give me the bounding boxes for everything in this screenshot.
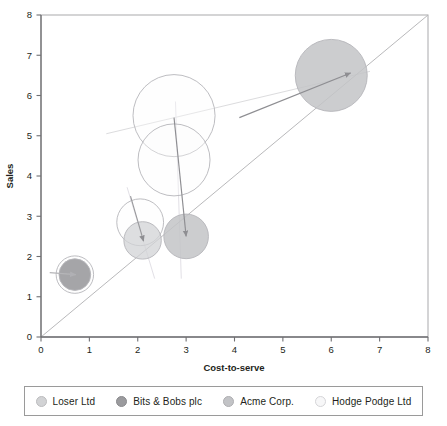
x-axis-tick-label: 8 (425, 344, 430, 355)
chart-legend: Loser Ltd Bits & Bobs plc Acme Corp. Hod… (24, 386, 423, 416)
y-axis-tick-label: 3 (27, 211, 32, 222)
legend-item-loser-ltd[interactable]: Loser Ltd (36, 396, 96, 407)
bubble-hodge-podge-ltd[interactable] (138, 124, 210, 196)
legend-swatch-bits-and-bobs-plc (116, 396, 127, 407)
x-axis-tick-label: 6 (329, 344, 334, 355)
y-axis-tick-label: 5 (27, 130, 32, 141)
bubble-loser-ltd[interactable] (124, 222, 161, 259)
y-axis-title: Sales (4, 164, 15, 189)
legend-label-acme-corp: Acme Corp. (240, 396, 294, 407)
legend-swatch-hodge-podge-ltd (315, 396, 326, 407)
y-axis-tick-label: 1 (27, 291, 32, 302)
legend-label-bits-and-bobs-plc: Bits & Bobs plc (133, 396, 202, 407)
x-axis-tick-label: 2 (135, 344, 140, 355)
y-axis-tick-label: 8 (27, 9, 32, 20)
x-axis-tick-label: 7 (377, 344, 382, 355)
legend-item-acme-corp[interactable]: Acme Corp. (223, 396, 294, 407)
legend-item-bits-and-bobs-plc[interactable]: Bits & Bobs plc (116, 396, 202, 407)
y-axis-tick-label: 6 (27, 90, 32, 101)
x-axis-tick-label: 4 (232, 344, 237, 355)
legend-swatch-loser-ltd (36, 396, 47, 407)
legend-label-hodge-podge-ltd: Hodge Podge Ltd (332, 396, 411, 407)
y-axis-tick-label: 2 (27, 251, 32, 262)
bubble-chart-screenshot: 012345678012345678 Cost-to-serve Sales L… (0, 0, 447, 426)
y-axis-tick-label: 0 (27, 331, 32, 342)
legend-swatch-acme-corp (223, 396, 234, 407)
bubble-chart-plot: 012345678012345678 Cost-to-serve Sales (0, 0, 447, 426)
bubble-acme-corp[interactable] (295, 39, 367, 111)
legend-label-loser-ltd: Loser Ltd (53, 396, 96, 407)
x-axis-tick-label: 1 (87, 344, 92, 355)
y-axis-tick-label: 7 (27, 50, 32, 61)
x-axis-title: Cost-to-serve (203, 362, 264, 373)
x-axis-tick-label: 3 (183, 344, 188, 355)
legend-item-hodge-podge-ltd[interactable]: Hodge Podge Ltd (315, 396, 411, 407)
y-axis-tick-label: 4 (27, 170, 32, 181)
x-axis-tick-label: 0 (38, 344, 43, 355)
x-axis-tick-label: 5 (280, 344, 285, 355)
